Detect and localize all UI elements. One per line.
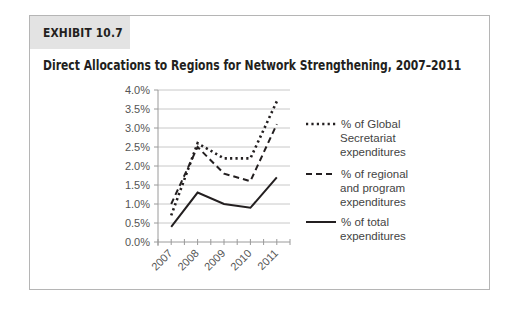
legend-label: expenditures: [340, 196, 406, 208]
y-tick-label: 3.0%: [125, 122, 150, 134]
y-tick-label: 2.0%: [125, 160, 150, 172]
y-tick-label: 3.5%: [125, 103, 150, 115]
y-tick-label: 1.0%: [125, 198, 150, 210]
y-tick-label: 2.5%: [125, 141, 150, 153]
y-tick-label: 1.5%: [125, 179, 150, 191]
legend-label: Secretariat: [340, 132, 396, 144]
y-tick-label: 0.0%: [125, 236, 150, 248]
legend-label: % of regional: [341, 168, 408, 180]
x-tick-label: 2010: [228, 247, 254, 273]
x-tick-label: 2009: [202, 247, 228, 273]
x-tick-label: 2007: [149, 247, 175, 273]
x-tick-label: 2008: [175, 247, 201, 273]
y-tick-label: 4.0%: [125, 84, 150, 96]
x-tick-label: 2011: [255, 247, 280, 272]
legend-label: expenditures: [340, 146, 406, 158]
legend-label: % of Global: [341, 118, 400, 130]
legend-label: and program: [340, 182, 405, 194]
y-tick-label: 0.5%: [125, 217, 150, 229]
legend-label: expenditures: [340, 230, 406, 242]
legend-label: % of total: [341, 216, 389, 228]
line-chart: 0.0%0.5%1.0%1.5%2.0%2.5%3.0%3.5%4.0%2007…: [0, 0, 517, 310]
